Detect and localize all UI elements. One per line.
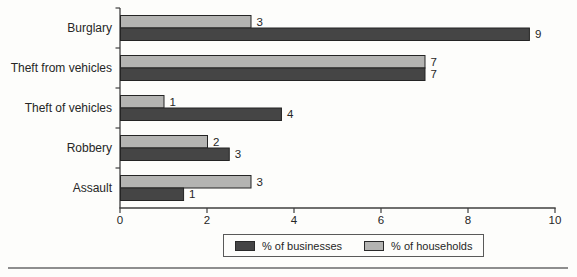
value-label-households: 2 — [213, 136, 219, 148]
bar-businesses — [121, 68, 426, 81]
legend: % of businesses % of households — [223, 234, 484, 257]
value-label-households: 3 — [257, 16, 263, 28]
value-label-businesses: 3 — [235, 148, 241, 160]
crime-rates-bar-chart-figure: 0246810Burglary39Theft from vehicles77Th… — [0, 0, 577, 277]
bar-businesses — [121, 188, 184, 201]
bar-businesses — [121, 108, 282, 121]
legend-label-households: % of households — [391, 240, 472, 252]
value-label-households: 7 — [431, 56, 437, 68]
category-label: Theft from vehicles — [11, 61, 112, 75]
legend-item-businesses: % of businesses — [235, 240, 342, 252]
value-label-businesses: 1 — [189, 188, 195, 200]
category-label: Burglary — [67, 21, 112, 35]
bar-businesses — [121, 148, 230, 161]
bar-households — [121, 96, 165, 109]
legend-swatch-households — [364, 241, 384, 251]
bar-chart-svg: 0246810Burglary39Theft from vehicles77Th… — [0, 0, 577, 232]
x-tick-label: 6 — [378, 214, 384, 226]
category-label: Theft of vehicles — [25, 101, 112, 115]
value-label-businesses: 4 — [287, 108, 294, 120]
category-label: Assault — [73, 181, 113, 195]
x-tick-label: 0 — [117, 214, 123, 226]
x-tick-label: 8 — [465, 214, 471, 226]
value-label-households: 1 — [170, 96, 176, 108]
bar-households — [121, 56, 426, 69]
legend-item-households: % of households — [364, 240, 472, 252]
x-tick-label: 10 — [549, 214, 562, 226]
value-label-households: 3 — [257, 176, 263, 188]
bar-households — [121, 176, 252, 189]
category-label: Robbery — [67, 141, 112, 155]
value-label-businesses: 7 — [431, 68, 437, 80]
bar-businesses — [121, 28, 530, 41]
legend-label-businesses: % of businesses — [262, 240, 342, 252]
bottom-rule — [8, 267, 568, 269]
value-label-businesses: 9 — [535, 28, 541, 40]
bar-households — [121, 16, 252, 29]
x-tick-label: 4 — [291, 214, 298, 226]
legend-swatch-businesses — [235, 241, 255, 251]
x-tick-label: 2 — [204, 214, 210, 226]
bar-households — [121, 136, 208, 149]
